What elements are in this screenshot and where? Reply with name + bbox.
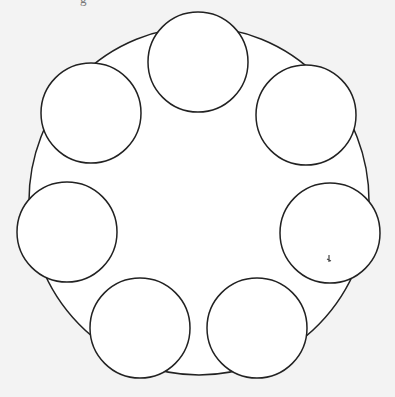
small-circle-bottom-right: [207, 278, 307, 378]
small-circle-top: [148, 12, 248, 112]
small-circle-bottom-left: [90, 278, 190, 378]
small-circle-right: [280, 183, 380, 283]
circle-diagram: [0, 0, 395, 397]
small-circle-left: [17, 182, 117, 282]
small-circle-top-right: [256, 65, 356, 165]
small-circle-top-left: [41, 63, 141, 163]
